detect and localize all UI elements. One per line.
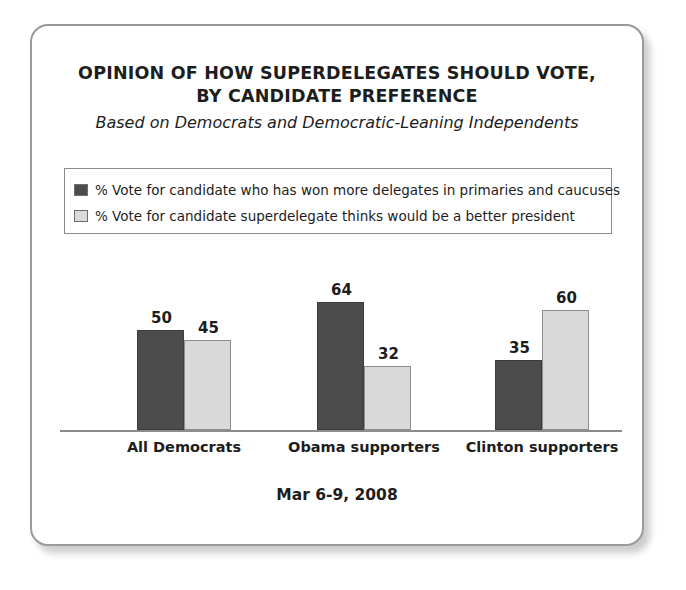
bar-value-label: 45: [185, 319, 232, 341]
legend-item-delegates: % Vote for candidate who has won more de…: [74, 178, 611, 202]
chart-legend: % Vote for candidate who has won more de…: [64, 168, 612, 234]
chart-title-line-1: OPINION OF HOW SUPERDELEGATES SHOULD VOT…: [32, 62, 642, 85]
bar-obama-supporters-better-president: 32: [364, 366, 411, 430]
bar-all-democrats-better-president: 45: [184, 340, 231, 430]
category-label-obama-supporters: Obama supporters: [274, 439, 454, 455]
bar-clinton-supporters-better-president: 60: [542, 310, 589, 430]
bar-clinton-supporters-delegates: 35: [495, 360, 542, 430]
plot-area: 50 45 64 32 35 60 All Democrats Obama su…: [32, 251, 642, 431]
bar-value-label: 64: [318, 281, 365, 303]
category-label-all-democrats: All Democrats: [94, 439, 274, 455]
bar-value-label: 60: [543, 289, 590, 311]
axis-baseline: [60, 430, 622, 432]
dark-swatch-icon: [74, 184, 88, 196]
bar-value-label: 50: [138, 309, 185, 331]
bar-value-label: 35: [496, 339, 543, 361]
chart-card: OPINION OF HOW SUPERDELEGATES SHOULD VOT…: [30, 24, 644, 546]
chart-subtitle: Based on Democrats and Democratic-Leanin…: [32, 111, 642, 135]
category-label-clinton-supporters: Clinton supporters: [452, 439, 632, 455]
bar-value-label: 32: [365, 345, 412, 367]
legend-item-label: % Vote for candidate who has won more de…: [95, 182, 620, 198]
legend-item-label: % Vote for candidate superdelegate think…: [95, 208, 575, 224]
legend-item-better-president: % Vote for candidate superdelegate think…: [74, 204, 611, 228]
chart-title-line-2: BY CANDIDATE PREFERENCE: [32, 85, 642, 108]
bar-all-democrats-delegates: 50: [137, 330, 184, 430]
chart-title-block: OPINION OF HOW SUPERDELEGATES SHOULD VOT…: [32, 62, 642, 135]
light-swatch-icon: [74, 210, 88, 222]
bar-obama-supporters-delegates: 64: [317, 302, 364, 430]
chart-date-footer: Mar 6-9, 2008: [32, 486, 642, 504]
